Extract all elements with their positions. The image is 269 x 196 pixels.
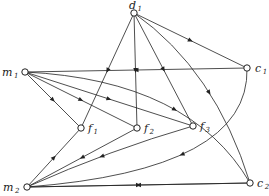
node-subscript-c2: 2 bbox=[264, 183, 269, 191]
node-f3 bbox=[190, 123, 196, 129]
nodes: d1m1c1f1f2f3m2c2 bbox=[2, 0, 269, 195]
node-subscript-f3: 3 bbox=[206, 126, 211, 134]
node-subscript-m2: 2 bbox=[14, 187, 20, 195]
node-m1 bbox=[22, 69, 28, 75]
node-label-m2: m2 bbox=[3, 181, 20, 195]
node-label-m1: m1 bbox=[2, 66, 18, 80]
node-label-d1: d1 bbox=[129, 0, 142, 13]
node-f1 bbox=[78, 125, 84, 131]
node-subscript-c1: 1 bbox=[263, 68, 267, 76]
arrow-icon-d1-c2 bbox=[206, 89, 211, 94]
node-subscript-m1: 1 bbox=[14, 72, 18, 80]
node-subscript-f2: 2 bbox=[149, 128, 155, 136]
edges bbox=[25, 13, 250, 187]
node-label-c2: c2 bbox=[257, 177, 269, 191]
node-label-f2: f2 bbox=[143, 122, 155, 136]
arrow-icon-m1-f3 bbox=[106, 96, 111, 100]
node-label-c1: c1 bbox=[255, 62, 267, 76]
node-subscript-d1: 1 bbox=[138, 5, 142, 13]
node-c2 bbox=[247, 180, 253, 186]
node-m2 bbox=[24, 184, 30, 190]
node-label-f1: f1 bbox=[87, 122, 98, 136]
node-label-f3: f3 bbox=[199, 120, 211, 134]
node-c1 bbox=[244, 65, 250, 71]
flow-network-diagram: d1m1c1f1f2f3m2c2 bbox=[0, 0, 269, 196]
node-subscript-f1: 1 bbox=[94, 128, 98, 136]
node-f2 bbox=[134, 125, 140, 131]
edge-f3-m2 bbox=[27, 126, 193, 187]
arrow-icon-f3-m2 bbox=[99, 153, 104, 157]
